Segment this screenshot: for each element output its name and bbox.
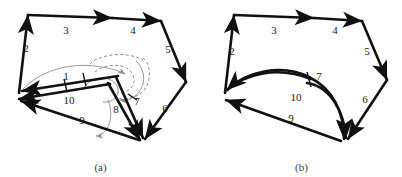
edge-label-3: 3 (271, 24, 277, 36)
edge-label-7: 7 (134, 95, 140, 107)
edge-label-4: 4 (130, 24, 136, 36)
edge-label-2: 2 (229, 45, 235, 57)
panel-a: 1 2 3 4 5 6 7 8 9 10 (a) (0, 0, 201, 177)
panel-b: 2 3 4 5 6 7 9 10 (b) (201, 0, 402, 177)
angle-arc-dashed-upper (90, 54, 143, 64)
edge-4 (112, 18, 161, 21)
angle-arc-dashed-outer (116, 58, 149, 99)
tick-mark-2 (83, 73, 86, 86)
edge-group-b (225, 15, 387, 141)
edge-label-3: 3 (63, 24, 69, 36)
diagram-b: 2 3 4 5 6 7 9 10 (201, 0, 402, 155)
edge-7-10-arc-outer (227, 70, 344, 139)
edge-4 (314, 18, 362, 21)
edge-label-2: 2 (23, 42, 29, 54)
edge-label-10: 10 (291, 91, 303, 103)
figure-root: 1 2 3 4 5 6 7 8 9 10 (a) (0, 0, 402, 177)
edge-label-5: 5 (364, 45, 370, 57)
edge-label-10: 10 (64, 94, 76, 106)
edge-label-7: 7 (316, 70, 322, 82)
edge-label-1: 1 (63, 70, 69, 82)
edge-group-a (19, 15, 186, 140)
edge-3 (28, 15, 112, 18)
edge-2 (19, 15, 28, 93)
panel-a-caption: (a) (0, 161, 201, 173)
edge-7 (116, 77, 143, 138)
edge-6 (348, 80, 387, 139)
edge-label-4: 4 (332, 24, 338, 36)
edge-3 (234, 15, 314, 18)
panel-b-caption: (b) (201, 161, 402, 173)
edge-label-9: 9 (288, 112, 294, 124)
edge-label-6: 6 (362, 93, 368, 105)
edge-label-5: 5 (165, 43, 171, 55)
edge-label-6: 6 (162, 102, 168, 114)
edge-label-8: 8 (113, 103, 119, 115)
diagram-a: 1 2 3 4 5 6 7 8 9 10 (0, 0, 201, 155)
edge-label-9: 9 (79, 114, 85, 126)
edge-9 (226, 100, 341, 141)
